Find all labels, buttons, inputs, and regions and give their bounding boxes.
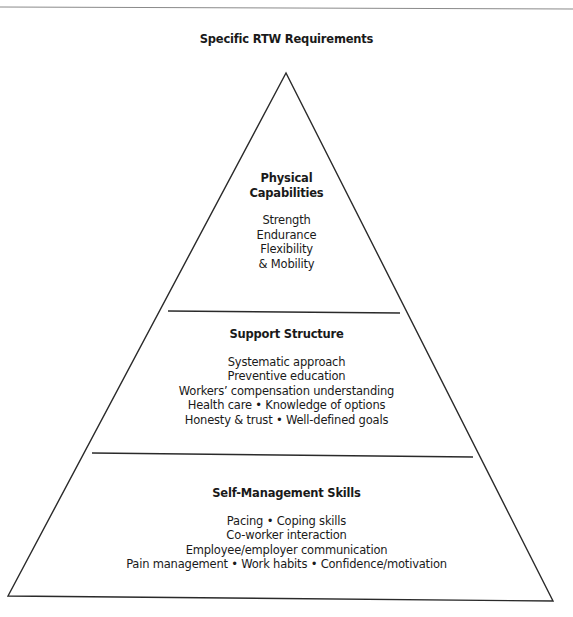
level-title-line: Physical — [227, 171, 347, 186]
level-item: Flexibility — [0, 242, 573, 257]
level-item: Employee/employer communication — [0, 543, 573, 558]
level-item: Health care • Knowledge of options — [0, 398, 573, 413]
level-physical-capabilities: Physical Capabilities Strength Endurance… — [0, 171, 573, 271]
level-items: Systematic approach Preventive education… — [0, 355, 573, 428]
divider-middle-bottom — [92, 453, 473, 457]
level-support-structure: Support Structure Systematic approach Pr… — [0, 327, 573, 427]
level-items: Strength Endurance Flexibility & Mobilit… — [0, 213, 573, 271]
level-item: Preventive education — [0, 369, 573, 384]
level-title: Physical Capabilities — [227, 171, 347, 200]
level-item: Pacing • Coping skills — [0, 514, 573, 529]
level-item: Systematic approach — [0, 355, 573, 370]
header-rule — [0, 7, 573, 9]
divider-top-middle — [168, 311, 400, 313]
level-title-line: Support Structure — [0, 327, 573, 342]
level-title-line: Self-Management Skills — [0, 486, 573, 501]
level-items: Pacing • Coping skills Co-worker interac… — [0, 514, 573, 572]
level-title: Self-Management Skills — [0, 486, 573, 501]
diagram-title: Specific RTW Requirements — [0, 32, 573, 46]
level-item: Pain management • Work habits • Confiden… — [0, 557, 573, 572]
level-self-management-skills: Self-Management Skills Pacing • Coping s… — [0, 486, 573, 572]
level-title: Support Structure — [0, 327, 573, 342]
level-title-line: Capabilities — [227, 186, 347, 201]
level-item: Strength — [0, 213, 573, 228]
level-item: Workers’ compensation understanding — [0, 384, 573, 399]
level-item: & Mobility — [0, 257, 573, 272]
level-item: Co-worker interaction — [0, 528, 573, 543]
level-item: Endurance — [0, 228, 573, 243]
level-item: Honesty & trust • Well-defined goals — [0, 413, 573, 428]
